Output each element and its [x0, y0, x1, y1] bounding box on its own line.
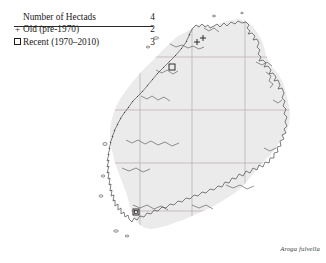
ireland-distribution-map	[96, 0, 326, 250]
landmass-fill	[110, 19, 290, 229]
square-marker-icon	[12, 37, 23, 50]
legend-header-symbol-cell	[12, 11, 23, 24]
species-name-caption: Aroga fulvella	[280, 245, 320, 252]
square-glyph	[14, 38, 21, 45]
distribution-map-figure: Number of Hectads 4 + Old (pre-1970) 2 R…	[0, 0, 326, 263]
